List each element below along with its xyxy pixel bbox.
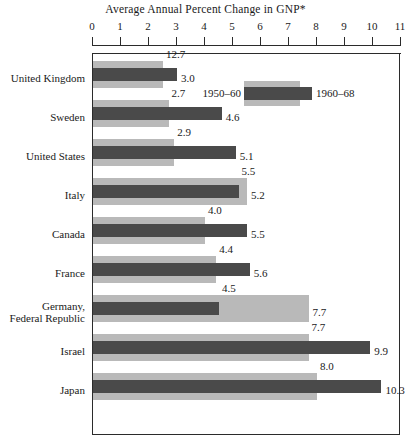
legend-swatch-dark: [244, 87, 312, 100]
x-tick-mark-5: [232, 37, 233, 45]
category-label: Canada: [0, 227, 85, 240]
value-label-right: 5.5: [251, 228, 265, 240]
bar-row: United States2.95.1: [0, 136, 411, 175]
x-tick-label-0: 0: [81, 20, 103, 32]
bar-row: Israel7.79.9: [0, 331, 411, 370]
x-tick-mark-7: [288, 37, 289, 45]
bar-1960-68: [93, 224, 247, 237]
value-label-right: 5.2: [251, 189, 265, 201]
gnp-bar-chart: Average Annual Percent Change in GNP* 01…: [0, 0, 411, 441]
value-label-right: 7.7: [313, 306, 327, 318]
category-label: Japan: [0, 383, 85, 396]
value-label-top: 4.5: [222, 282, 236, 294]
value-label-top: 4.4: [219, 243, 233, 255]
bar-row: France4.45.6: [0, 253, 411, 292]
x-axis-line: [92, 45, 401, 46]
x-tick-label-11: 11: [389, 20, 411, 32]
x-tick-mark-6: [260, 37, 261, 45]
x-tick-label-2: 2: [137, 20, 159, 32]
x-tick-label-9: 9: [333, 20, 355, 32]
bar-1960-68: [93, 185, 239, 198]
value-label-top: 8.0: [320, 360, 334, 372]
legend-label-1960-68: 1960–68: [316, 87, 355, 99]
x-tick-mark-3: [176, 37, 177, 45]
value-label-top: 2.9: [177, 126, 191, 138]
category-label: United States: [0, 149, 85, 162]
bar-1960-68: [93, 263, 250, 276]
chart-title: Average Annual Percent Change in GNP*: [0, 3, 411, 15]
x-tick-mark-0: [92, 37, 93, 45]
x-tick-mark-11: [400, 37, 401, 45]
bar-1960-68: [93, 146, 236, 159]
x-tick-label-8: 8: [305, 20, 327, 32]
category-label: Sweden: [0, 110, 85, 123]
category-label: Italy: [0, 188, 85, 201]
x-tick-label-3: 3: [165, 20, 187, 32]
x-tick-label-10: 10: [361, 20, 383, 32]
value-label-right: 9.9: [374, 345, 388, 357]
category-label: Germany, Federal Republic: [0, 299, 85, 324]
bar-row: Japan8.010.3: [0, 370, 411, 409]
value-label-top: 7.7: [312, 321, 326, 333]
value-label-top: 4.0: [208, 204, 222, 216]
category-label: Israel: [0, 344, 85, 357]
x-tick-mark-1: [120, 37, 121, 45]
bar-1960-68: [93, 341, 370, 354]
x-tick-label-5: 5: [221, 20, 243, 32]
value-label-right: 5.6: [254, 267, 268, 279]
value-label-top: 12.7: [166, 48, 185, 60]
bar-row: Italy5.55.2: [0, 175, 411, 214]
bar-row: Canada4.05.5: [0, 214, 411, 253]
chart-legend: 1950–60 1960–68: [0, 80, 411, 110]
value-label-right: 4.6: [226, 111, 240, 123]
legend-label-1950-60: 1950–60: [203, 87, 242, 99]
x-tick-mark-9: [344, 37, 345, 45]
x-tick-label-6: 6: [249, 20, 271, 32]
bar-1960-68: [93, 380, 381, 393]
x-tick-mark-8: [316, 37, 317, 45]
x-tick-mark-2: [148, 37, 149, 45]
x-tick-mark-10: [372, 37, 373, 45]
x-tick-label-1: 1: [109, 20, 131, 32]
x-tick-label-7: 7: [277, 20, 299, 32]
x-tick-mark-4: [204, 37, 205, 45]
value-label-right: 5.1: [240, 150, 254, 162]
x-axis: 01234567891011: [0, 20, 411, 53]
category-label: France: [0, 266, 85, 279]
value-label-top: 5.5: [242, 165, 256, 177]
x-tick-label-4: 4: [193, 20, 215, 32]
value-label-right: 10.3: [385, 384, 404, 396]
bar-1960-68: [93, 302, 219, 315]
bar-row: Germany, Federal Republic4.57.7: [0, 292, 411, 331]
